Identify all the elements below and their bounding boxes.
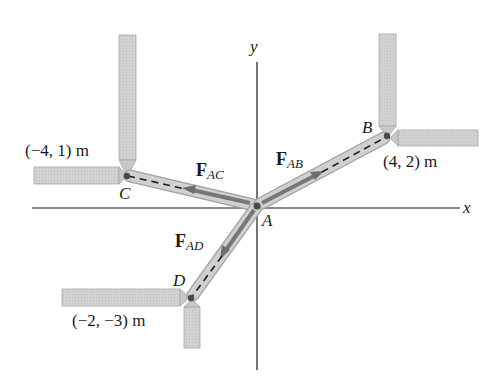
support-b-horizontal [398, 130, 478, 146]
point-d-label: D [172, 271, 186, 290]
joint-a [254, 203, 261, 210]
rod-ab [260, 137, 386, 204]
force-arrow-ad [226, 210, 254, 250]
point-d-coords: (−2, −3) m [72, 311, 145, 330]
joint-d [188, 295, 194, 301]
point-b-label: B [362, 118, 373, 137]
force-label-ab: FAB [276, 149, 303, 171]
support-d-vertical-tip [184, 301, 200, 307]
support-d-vertical [184, 307, 200, 348]
support-c-vertical [119, 35, 136, 160]
point-c-label: C [119, 184, 131, 203]
support-c-horizontal-tip [119, 167, 124, 184]
rod-ad [191, 209, 255, 298]
rod-ac [128, 176, 254, 205]
y-axis-label: y [248, 37, 258, 56]
force-label-ac: FAC [196, 160, 224, 182]
support-c [34, 35, 136, 184]
force-diagram: x y [0, 0, 501, 390]
support-c-horizontal [34, 167, 119, 184]
support-b-horizontal-tip [391, 130, 398, 146]
point-c-coords: (−4, 1) m [25, 141, 89, 160]
joint-c [124, 173, 130, 179]
joint-b [384, 133, 390, 139]
support-b [379, 34, 478, 146]
support-d-horizontal-tip [180, 289, 187, 306]
support-b-vertical [379, 34, 396, 126]
x-axis-label: x [462, 198, 471, 217]
point-b-coords: (4, 2) m [383, 152, 437, 171]
force-arrow-ab [262, 175, 316, 203]
point-a-label: A [261, 211, 273, 230]
force-label-ad: FAD [175, 231, 204, 253]
support-d-horizontal [62, 289, 180, 306]
